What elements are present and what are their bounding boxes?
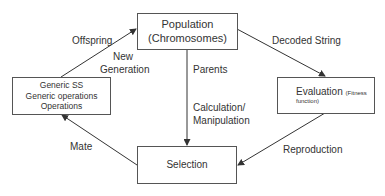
edge-label-parents: Parents: [193, 63, 227, 76]
node-generic-operations: Generic SS Generic operations Operations: [12, 77, 111, 115]
edge-label-generation: Generation: [100, 63, 149, 76]
node-population: Population (Chromosomes): [137, 13, 238, 50]
generic-line2: Generic operations: [26, 91, 98, 102]
evaluation-note-1: (Fitness: [345, 90, 366, 96]
edge-label-decoded-string: Decoded String: [272, 34, 341, 47]
edge-label-mate: Mate: [70, 140, 92, 153]
population-title: Population: [162, 18, 214, 32]
generic-line3: Operations: [41, 101, 83, 112]
edge-label-reproduction: Reproduction: [283, 143, 342, 156]
node-selection: Selection: [137, 146, 237, 184]
selection-title: Selection: [166, 159, 207, 172]
evaluation-note-2: function): [296, 98, 319, 106]
edge-label-calculation: Calculation/: [193, 101, 245, 114]
generic-line1: Generic SS: [40, 80, 83, 91]
edge-label-new: New: [113, 50, 133, 63]
population-subtitle: (Chromosomes): [148, 32, 227, 46]
evaluation-title: Evaluation: [296, 86, 343, 97]
edge-label-manipulation: Manipulation: [193, 114, 250, 127]
node-evaluation: Evaluation (Fitness function): [277, 77, 375, 114]
arrow-reproduction: [238, 113, 325, 165]
edge-label-offspring: Offspring: [72, 34, 112, 47]
